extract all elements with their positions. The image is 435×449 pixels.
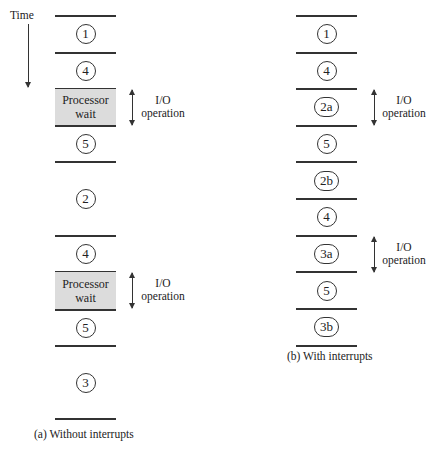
time-label: Time — [10, 9, 34, 21]
segment-1: 1 — [55, 16, 116, 52]
io-text: I/O — [137, 94, 189, 107]
io-arrow-icon — [374, 90, 375, 125]
step-circle: 5 — [317, 134, 337, 154]
wait-text: Processor — [62, 93, 109, 107]
io-text: operation — [137, 290, 189, 303]
wait-text: Processor — [62, 277, 109, 291]
step-circle: 3 — [76, 373, 96, 393]
processor-wait-box: Processorwait — [55, 89, 116, 125]
segment-2a: 2a — [296, 89, 357, 125]
segment-2b: 2b — [296, 162, 357, 199]
segment-4: 4 — [55, 53, 116, 89]
step-circle: 2a — [314, 97, 339, 117]
segment-1: 1 — [296, 16, 357, 52]
step-circle: 1 — [317, 24, 337, 44]
io-arrow-icon — [132, 90, 133, 125]
segment-4: 4 — [296, 199, 357, 235]
step-circle: 4 — [76, 244, 96, 264]
step-circle: 4 — [76, 61, 96, 81]
io-text: operation — [378, 254, 430, 267]
io-text: operation — [137, 107, 189, 120]
segment-2: 2 — [55, 162, 116, 235]
io-text: I/O — [137, 277, 189, 290]
io-text: operation — [378, 107, 430, 120]
io-label: I/Ooperation — [137, 94, 189, 120]
segment-5: 5 — [296, 272, 357, 309]
io-label: I/Ooperation — [137, 277, 189, 303]
io-text: I/O — [378, 241, 430, 254]
segment-5: 5 — [296, 126, 357, 162]
io-arrow-icon — [374, 237, 375, 272]
segment-3a: 3a — [296, 236, 357, 272]
segment-5: 5 — [55, 126, 116, 162]
step-circle: 3b — [314, 317, 339, 337]
divider — [296, 345, 357, 347]
io-label: I/Ooperation — [378, 94, 430, 120]
segment-4: 4 — [296, 53, 357, 89]
step-circle: 2b — [314, 171, 339, 191]
processor-wait-box: Processorwait — [55, 272, 116, 309]
step-circle: 3a — [314, 244, 339, 264]
step-circle: 4 — [317, 207, 337, 227]
time-arrow-icon — [28, 24, 29, 87]
step-circle: 2 — [76, 189, 96, 209]
step-circle: 5 — [76, 318, 96, 338]
step-circle: 5 — [76, 134, 96, 154]
wait-text: wait — [75, 291, 96, 305]
segment-4: 4 — [55, 236, 116, 272]
step-circle: 4 — [317, 61, 337, 81]
divider — [55, 418, 116, 420]
segment-5: 5 — [55, 310, 116, 346]
caption-a: (a) Without interrupts — [34, 428, 134, 440]
io-label: I/Ooperation — [378, 241, 430, 267]
segment-3b: 3b — [296, 309, 357, 345]
step-circle: 1 — [76, 24, 96, 44]
io-arrow-icon — [132, 273, 133, 308]
io-text: I/O — [378, 94, 430, 107]
segment-3: 3 — [55, 346, 116, 419]
step-circle: 5 — [317, 281, 337, 301]
wait-text: wait — [75, 107, 96, 121]
caption-b: (b) With interrupts — [287, 350, 373, 362]
